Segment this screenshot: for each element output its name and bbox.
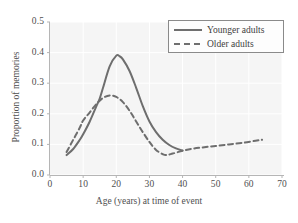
- x-tick-label: 10: [73, 179, 93, 189]
- x-tick-label: 50: [206, 179, 226, 189]
- x-tick-label: 30: [139, 179, 159, 189]
- legend-item-older-adults: Older adults: [174, 37, 254, 51]
- x-tick-label: 0: [40, 179, 60, 189]
- x-tick-label: 20: [106, 179, 126, 189]
- y-tick-label: 0.5: [14, 16, 44, 26]
- y-tick-label: 0.0: [14, 169, 44, 179]
- legend-item-younger-adults: Younger adults: [174, 23, 264, 37]
- chart-container: 010203040506070 0.00.10.20.30.40.5 Propo…: [0, 0, 298, 223]
- x-tick-label: 60: [239, 179, 259, 189]
- legend-swatch-solid-line-icon: [174, 25, 202, 35]
- x-tick-label: 70: [272, 179, 292, 189]
- chart-legend: Younger adults Older adults: [168, 20, 284, 53]
- x-axis-title: Age (years) at time of event: [0, 196, 298, 206]
- legend-label-older-adults: Older adults: [207, 39, 254, 49]
- legend-swatch-dashed-line-icon: [174, 39, 202, 49]
- y-axis-title: Proportion of memories: [11, 37, 21, 157]
- legend-label-younger-adults: Younger adults: [207, 25, 264, 35]
- x-tick-label: 40: [173, 179, 193, 189]
